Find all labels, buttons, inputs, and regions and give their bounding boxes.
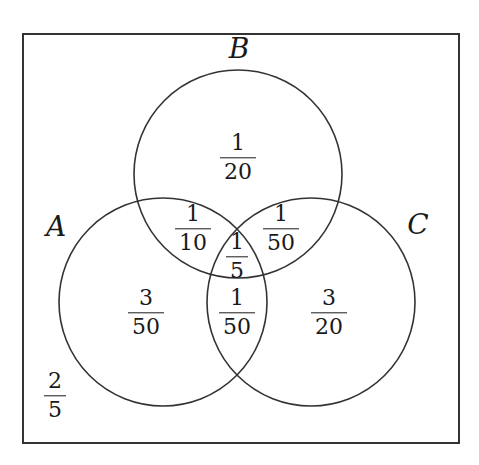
denominator: 50 (263, 231, 299, 255)
denominator: 5 (226, 259, 248, 283)
region-b-and-c: 1 50 (263, 203, 299, 254)
numerator: 1 (227, 132, 249, 156)
denominator: 50 (128, 315, 164, 339)
region-a-and-b: 1 10 (175, 203, 211, 254)
denominator: 20 (220, 160, 256, 184)
fraction-bar (263, 228, 299, 229)
fraction-bar (175, 228, 211, 229)
fraction-bar (219, 312, 255, 313)
denominator: 50 (219, 315, 255, 339)
fraction-bar (128, 312, 164, 313)
denominator: 20 (311, 315, 347, 339)
denominator: 10 (175, 231, 211, 255)
fraction-bar (220, 157, 256, 158)
numerator: 1 (226, 287, 248, 311)
numerator: 3 (318, 287, 340, 311)
fraction-bar (44, 395, 66, 396)
numerator: 1 (270, 203, 292, 227)
region-b-only: 1 20 (220, 132, 256, 183)
set-label-a: A (46, 210, 66, 243)
set-label-c: C (407, 208, 428, 241)
region-a-b-c: 1 5 (226, 231, 248, 282)
numerator: 3 (135, 287, 157, 311)
fraction-bar (311, 312, 347, 313)
region-a-and-c: 1 50 (219, 287, 255, 338)
fraction-bar (226, 256, 248, 257)
denominator: 5 (44, 398, 66, 422)
numerator: 1 (226, 231, 248, 255)
region-c-only: 3 20 (311, 287, 347, 338)
set-label-b: B (229, 32, 250, 65)
region-outside: 2 5 (44, 370, 66, 421)
region-a-only: 3 50 (128, 287, 164, 338)
numerator: 2 (44, 370, 66, 394)
numerator: 1 (182, 203, 204, 227)
